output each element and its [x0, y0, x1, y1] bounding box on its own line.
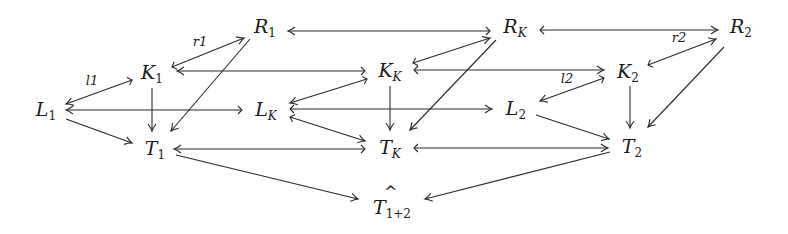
node-t1: T1 — [145, 139, 165, 161]
arrow-kk-lk — [290, 79, 367, 103]
node-k2-sub: 2 — [631, 71, 639, 85]
node-kk: KK — [378, 61, 401, 83]
node-tk-base: T — [379, 136, 392, 158]
edge-label-r1: r1 — [193, 34, 208, 49]
node-l1-base: L — [36, 98, 49, 120]
node-t12-sub: 1+2 — [386, 207, 411, 221]
node-k1-sub: 1 — [155, 72, 163, 86]
node-k2-base: K — [617, 60, 631, 82]
hat-accent: ^ — [384, 185, 397, 201]
node-k1-base: K — [141, 61, 155, 83]
node-k1: K1 — [141, 63, 163, 85]
node-tk: TK — [379, 138, 401, 160]
node-r2: R2 — [730, 17, 752, 39]
node-t2: T2 — [622, 137, 642, 159]
node-kk-base: K — [378, 59, 392, 81]
arrow-rk-tk — [410, 40, 496, 130]
node-r1: R1 — [254, 17, 276, 39]
arrow-t1-t12 — [176, 155, 358, 199]
node-rk-sub: K — [518, 26, 527, 40]
node-lk-base: L — [255, 98, 268, 120]
node-t2-sub: 2 — [635, 146, 643, 160]
node-rk: RK — [503, 17, 526, 39]
node-l1-sub: 1 — [48, 109, 56, 123]
commutative-diagram: R1 RK R2 K1 KK K2 L1 LK L2 T1 TK T2 ^ T1… — [0, 0, 788, 234]
node-t1-base: T — [145, 137, 158, 159]
node-lk-sub: K — [268, 109, 277, 123]
node-tk-sub: K — [392, 147, 401, 161]
edge-label-l2: l2 — [561, 71, 573, 86]
node-t1-sub: 1 — [158, 148, 166, 162]
node-kk-sub: K — [393, 70, 402, 84]
node-l1: L1 — [36, 100, 56, 122]
arrow-kk-rk — [413, 38, 490, 63]
node-l2-base: L — [506, 97, 519, 119]
arrow-l1-t1 — [66, 119, 132, 143]
arrow-l2-t2 — [536, 115, 609, 139]
arrow-lk-tk — [290, 117, 365, 141]
node-r2-base: R — [730, 15, 744, 37]
node-l2: L2 — [506, 99, 526, 121]
node-lk: LK — [255, 100, 277, 122]
arrow-k1-l1 — [66, 80, 132, 104]
arrow-r2-t2 — [648, 47, 724, 127]
node-rk-base: R — [503, 15, 517, 37]
node-r1-base: R — [254, 15, 268, 37]
node-t2-base: T — [622, 135, 635, 157]
arrow-t2-t12 — [425, 152, 610, 199]
arrow-k1-r1 — [172, 38, 244, 67]
node-l2-sub: 2 — [518, 108, 526, 122]
arrow-r1-t1 — [171, 39, 250, 131]
edge-label-r2: r2 — [672, 30, 687, 45]
node-r1-sub: 1 — [268, 26, 276, 40]
node-r2-sub: 2 — [744, 26, 752, 40]
node-t12: ^ T1+2 — [373, 198, 411, 220]
node-k2: K2 — [617, 62, 639, 84]
edge-label-l1: l1 — [86, 73, 98, 88]
